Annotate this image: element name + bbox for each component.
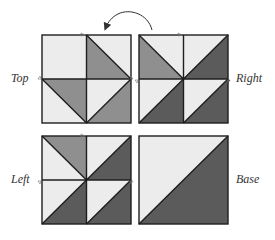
rotate-arrow-icon [106, 12, 152, 30]
quilt-fold-diagram: Top Right Left Base [0, 0, 275, 240]
block-base [139, 136, 228, 224]
block-top [38, 33, 133, 123]
block-right [135, 33, 230, 123]
label-base: Base [236, 172, 260, 186]
label-top: Top [11, 71, 29, 85]
label-right: Right [235, 71, 263, 85]
label-left: Left [10, 172, 30, 186]
block-left [38, 134, 133, 224]
